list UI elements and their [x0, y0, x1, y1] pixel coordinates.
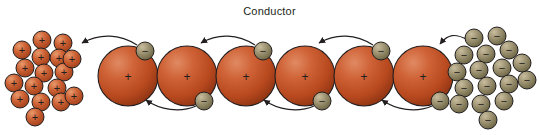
- positive-charge-sign: +: [19, 44, 25, 56]
- negative-charge-sign: −: [499, 62, 505, 74]
- drift-arrow: [319, 36, 373, 45]
- positive-charge-sign: +: [38, 96, 44, 108]
- bound-electron: −: [195, 92, 213, 110]
- bound-electron-sign: −: [378, 45, 384, 57]
- negative-charge: −: [488, 27, 506, 45]
- negative-charge: −: [470, 61, 488, 79]
- negative-charge: −: [500, 75, 518, 93]
- positive-charge-sign: +: [17, 93, 23, 105]
- negative-charge-sign: −: [454, 66, 460, 78]
- bound-electron: −: [313, 92, 331, 110]
- drift-arrow: [82, 36, 137, 45]
- positive-charge-sign: +: [39, 34, 45, 46]
- negative-charge: −: [478, 77, 496, 95]
- negative-charge-sign: −: [485, 114, 491, 126]
- positive-charge: +: [13, 41, 31, 59]
- negative-charge-sign: −: [461, 82, 467, 94]
- negative-charge-sign: −: [506, 78, 512, 90]
- negative-charge-sign: −: [524, 74, 530, 86]
- bound-electron: −: [372, 42, 390, 60]
- negative-charge-sign: −: [461, 49, 467, 61]
- positive-charge-sign: +: [38, 51, 44, 63]
- positive-charge: +: [11, 90, 29, 108]
- atom-core-sign: +: [124, 70, 131, 84]
- positive-charge: +: [25, 77, 43, 95]
- positive-charge: +: [33, 31, 51, 49]
- negative-charge: −: [477, 45, 495, 63]
- positive-charge-sign: +: [32, 111, 38, 123]
- positive-charge-sign: +: [56, 52, 62, 64]
- negative-charge-sign: −: [476, 64, 482, 76]
- positive-charge-sign: +: [58, 96, 64, 108]
- bound-electron: −: [254, 42, 272, 60]
- bound-electron: −: [431, 92, 449, 110]
- negative-charge-sign: −: [483, 48, 489, 60]
- positive-charge-sign: +: [22, 62, 28, 74]
- negative-charge: −: [495, 92, 513, 110]
- atom-core-sign: +: [242, 70, 249, 84]
- atom-core-sign: +: [301, 70, 308, 84]
- negative-charge-sign: −: [484, 80, 490, 92]
- bound-electron: −: [136, 42, 154, 60]
- positive-charge-sign: +: [54, 82, 60, 94]
- diagram-canvas: Conductor ++++++: [0, 0, 539, 135]
- negative-charge-sign: −: [478, 98, 484, 110]
- negative-charge: −: [450, 95, 468, 113]
- negative-charge-cluster: −−−−−−−−−−−−−−−−−: [448, 27, 536, 129]
- positive-charge-sign: +: [60, 37, 66, 49]
- negative-charge: −: [518, 71, 536, 89]
- atom-core-sign: +: [360, 70, 367, 84]
- positive-charge: +: [5, 74, 23, 92]
- negative-charge-sign: −: [506, 44, 512, 56]
- positive-charge: +: [32, 48, 50, 66]
- positive-charge: +: [16, 59, 34, 77]
- positive-charge-cluster: +++++++++++++++++: [5, 31, 83, 126]
- bound-electron-sign: −: [260, 45, 266, 57]
- positive-charge-sign: +: [69, 53, 75, 65]
- negative-charge: −: [465, 29, 483, 47]
- negative-charge: −: [455, 79, 473, 97]
- negative-charge: −: [455, 46, 473, 64]
- negative-charge: −: [479, 111, 497, 129]
- positive-charge-sign: +: [41, 67, 47, 79]
- atom-core-sign: +: [419, 70, 426, 84]
- bound-electron-sign: −: [437, 95, 443, 107]
- drift-arrow: [201, 36, 255, 45]
- negative-charge: −: [448, 63, 466, 81]
- bound-electron-sign: −: [201, 95, 207, 107]
- positive-charge: +: [26, 108, 44, 126]
- positive-charge-sign: +: [31, 80, 37, 92]
- negative-charge-sign: −: [471, 32, 477, 44]
- bound-electron-sign: −: [142, 45, 148, 57]
- positive-charge: +: [65, 87, 83, 105]
- negative-charge-sign: −: [494, 30, 500, 42]
- atom-core-sign: +: [183, 70, 190, 84]
- positive-charge: +: [63, 50, 81, 68]
- diagram-graphics: ++++++ −−−−−− +++++++++++++++++ −−−−−−−−…: [0, 0, 539, 135]
- negative-charge-sign: −: [456, 98, 462, 110]
- negative-charge: −: [472, 95, 490, 113]
- positive-charge-sign: +: [61, 66, 67, 78]
- positive-charge-sign: +: [71, 90, 77, 102]
- negative-charge: −: [493, 59, 511, 77]
- negative-charge-sign: −: [519, 57, 525, 69]
- positive-charge-sign: +: [11, 77, 17, 89]
- drift-arrow: [440, 35, 468, 44]
- negative-charge-sign: −: [501, 95, 507, 107]
- bound-electron-sign: −: [319, 95, 325, 107]
- negative-charge: −: [513, 54, 531, 72]
